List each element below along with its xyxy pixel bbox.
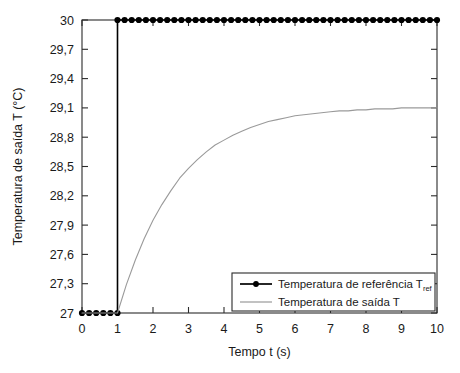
chart-figure: 2727,327,627,928,228,528,829,129,429,730… [0,0,460,373]
series-marker-0 [214,17,220,23]
series-marker-0 [320,17,326,23]
x-tick-label: 8 [363,322,370,336]
series-marker-0 [313,17,319,23]
x-tick-label: 2 [150,322,157,336]
y-tick-label: 29,1 [50,101,74,115]
series-marker-0 [342,17,348,23]
series-marker-0 [164,17,170,23]
y-tick-label: 27 [60,307,74,321]
series-marker-0 [242,17,248,23]
x-tick-label: 6 [292,322,299,336]
series-marker-0 [285,17,291,23]
step-response-line-chart: 2727,327,627,928,228,528,829,129,429,730… [0,0,460,373]
x-tick-label: 7 [327,322,334,336]
series-marker-0 [377,17,383,23]
series-marker-0 [136,17,142,23]
series-marker-0 [391,17,397,23]
y-tick-label: 29,7 [50,43,74,57]
series-marker-0 [193,17,199,23]
series-marker-0 [292,17,298,23]
x-tick-label: 5 [256,322,263,336]
series-marker-0 [271,17,277,23]
series-marker-0 [427,17,433,23]
series-marker-0 [171,17,177,23]
x-tick-label: 0 [79,322,86,336]
series-marker-0 [384,17,390,23]
series-marker-0 [420,17,426,23]
legend-swatch-reference-marker [253,281,259,287]
series-marker-0 [178,17,184,23]
series-marker-0 [370,17,376,23]
y-tick-label: 27,6 [50,248,74,262]
series-marker-0 [235,17,241,23]
x-tick-label: 1 [114,322,121,336]
series-marker-0 [398,17,404,23]
series-marker-0 [143,17,149,23]
plot-area-background [82,20,437,313]
y-tick-label: 27,9 [50,219,74,233]
series-marker-0 [157,17,163,23]
series-marker-0 [356,17,362,23]
series-marker-0 [363,17,369,23]
x-tick-label: 4 [221,322,228,336]
series-marker-0 [278,17,284,23]
series-marker-0 [122,17,128,23]
series-marker-0 [327,17,333,23]
series-marker-0 [200,17,206,23]
y-tick-label: 30 [60,14,74,28]
series-marker-0 [228,17,234,23]
y-tick-label: 28,2 [50,189,74,203]
y-tick-label: 27,3 [50,277,74,291]
series-marker-0 [114,17,120,23]
series-marker-0 [207,17,213,23]
series-marker-0 [335,17,341,23]
y-tick-label: 28,5 [50,160,74,174]
y-axis-title: Temperatura de saída T (°C) [11,87,25,245]
x-tick-label: 10 [430,322,444,336]
series-marker-0 [413,17,419,23]
y-tick-label: 29,4 [50,72,74,86]
series-marker-0 [129,17,135,23]
series-marker-0 [299,17,305,23]
series-marker-0 [256,17,262,23]
x-axis-title: Tempo t (s) [228,345,291,359]
series-marker-0 [264,17,270,23]
series-marker-0 [185,17,191,23]
y-tick-label: 28,8 [50,131,74,145]
series-marker-0 [249,17,255,23]
series-marker-0 [406,17,412,23]
series-marker-0 [221,17,227,23]
series-marker-0 [434,17,440,23]
series-marker-0 [349,17,355,23]
series-marker-0 [306,17,312,23]
x-tick-label: 3 [185,322,192,336]
chart-legend: Temperatura de referência Tref Temperatu… [232,273,435,311]
series-marker-0 [150,17,156,23]
x-tick-label: 9 [398,322,405,336]
legend-label-output: Temperatura de saída T [278,296,400,308]
